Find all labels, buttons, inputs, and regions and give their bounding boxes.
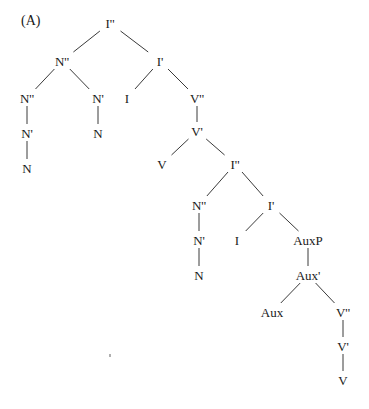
tree-edge [242, 172, 263, 196]
tree-edge [172, 139, 189, 155]
tree-node: I'' [230, 158, 239, 171]
tree-edge [206, 139, 224, 155]
tree-node: I' [157, 55, 164, 68]
tree-node: N' [21, 127, 33, 140]
tree-edge [121, 31, 149, 52]
tree-edge [316, 283, 335, 303]
syntax-tree-diagram: (A) I''N''I'N''N'IV''N'NV'NVI''N''I'N'IA… [0, 0, 369, 409]
tree-node: N [22, 162, 31, 175]
scan-artifact-dot [109, 354, 111, 357]
tree-node: V'' [190, 92, 204, 105]
tree-node: V [157, 158, 166, 171]
tree-node: I'' [105, 17, 114, 30]
tree-node: V' [337, 340, 349, 353]
tree-node: Aux' [296, 269, 321, 282]
tree-node: N' [92, 92, 104, 105]
tree-edge [246, 213, 264, 231]
tree-edge [70, 69, 89, 89]
tree-edge [36, 69, 55, 89]
tree-edge [168, 69, 188, 89]
tree-node: V [338, 374, 347, 387]
tree-edge [73, 31, 100, 52]
tree-edge [280, 213, 299, 231]
tree-edge [207, 172, 228, 196]
tree-node: I' [268, 199, 275, 212]
tree-node: AuxP [293, 234, 323, 247]
tree-node: N' [193, 234, 205, 247]
tree-node: N'' [192, 199, 206, 212]
tree-node: N [194, 269, 203, 282]
tree-node: N'' [55, 55, 69, 68]
tree-node: V' [191, 125, 203, 138]
tree-node: N'' [20, 92, 34, 105]
tree-edge [281, 283, 300, 303]
tree-node: N [93, 127, 102, 140]
tree-node: I [125, 92, 129, 105]
tree-edge [135, 69, 153, 89]
tree-node: Aux [261, 306, 283, 319]
tree-node: I [235, 234, 239, 247]
tree-node: V'' [336, 306, 350, 319]
